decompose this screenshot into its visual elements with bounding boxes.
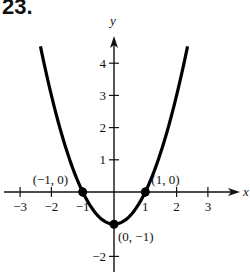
y-tick-label: 4	[100, 56, 107, 71]
point-marker	[110, 220, 119, 229]
ticks: −3−2−1123−21234	[13, 56, 211, 264]
point-label: (0, −1)	[118, 229, 154, 244]
point-label: (−1, 0)	[33, 172, 68, 187]
y-tick-label: 3	[100, 88, 107, 103]
point-marker	[78, 188, 87, 197]
parabola-graph: xy −3−2−1123−21234 (−1, 0)(1, 0)(0, −1)	[0, 0, 250, 278]
x-tick-label: −3	[13, 199, 27, 214]
x-tick-label: 2	[173, 199, 180, 214]
point-label: (1, 0)	[151, 172, 179, 187]
x-tick-label: −2	[44, 199, 58, 214]
y-tick-label: 2	[100, 120, 107, 135]
x-tick-label: 1	[142, 199, 149, 214]
x-tick-label: 3	[205, 199, 212, 214]
y-tick-label: 1	[100, 152, 107, 167]
y-tick-label: −2	[92, 249, 106, 264]
y-axis-label: y	[108, 13, 116, 28]
x-axis-label: x	[242, 184, 249, 199]
point-marker	[141, 188, 150, 197]
